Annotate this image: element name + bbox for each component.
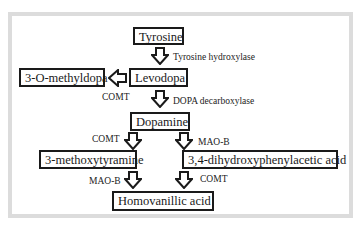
- arrow-down-icon: [175, 171, 193, 189]
- label-comt: COMT: [200, 174, 227, 184]
- node-levodopa: Levodopa: [129, 68, 188, 87]
- label-comt: COMT: [102, 92, 129, 102]
- arrow-down-icon: [151, 90, 169, 108]
- node-3-methoxytyramine: 3-methoxytyramine: [39, 150, 137, 169]
- arrow-down-icon: [151, 47, 169, 65]
- label-comt: COMT: [92, 134, 119, 144]
- arrow-down-icon: [124, 171, 142, 189]
- node-tyrosine: Tyrosine: [133, 27, 184, 45]
- label-mao-b: MAO-B: [89, 176, 121, 186]
- node-homovanillic-acid: Homovanillic acid: [112, 191, 214, 211]
- arrow-down-icon: [175, 132, 193, 150]
- label-mao-b: MAO-B: [198, 137, 230, 147]
- node-dopamine: Dopamine: [130, 112, 190, 131]
- arrow-left-icon: [108, 69, 127, 87]
- node-dopac: 3,4-dihydroxyphenylacetic acid: [182, 150, 338, 169]
- arrow-down-icon: [124, 132, 142, 150]
- node-3-o-methyldopa: 3-O-methyldopa: [19, 68, 105, 87]
- label-dopa-decarboxylase: DOPA decarboxylase: [173, 96, 254, 106]
- label-tyrosine-hydroxylase: Tyrosine hydroxylase: [173, 52, 255, 62]
